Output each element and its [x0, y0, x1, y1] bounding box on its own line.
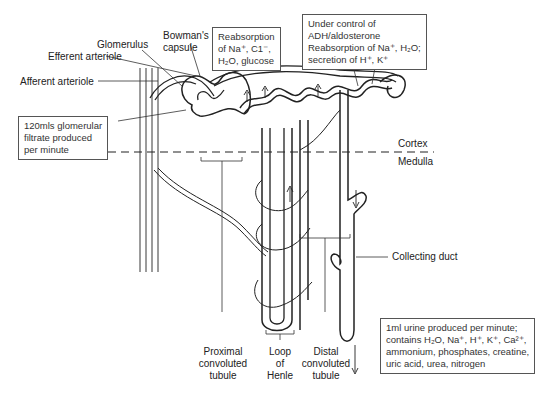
proximal-reabsorption-box: Reabsorption of Na⁺, C1⁻, H₂O, glucose: [212, 27, 281, 71]
bowmans-capsule-label: Bowman's capsule: [163, 30, 209, 54]
urine-box: 1ml urine produced per minute; contains …: [380, 318, 535, 374]
distal-control-box: Under control of ADH/aldosterone Reabsor…: [302, 14, 427, 70]
afferent-arteriole-label: Afferent arteriole: [20, 76, 94, 88]
loop-of-henle-label: Loop of Henle: [260, 346, 300, 382]
distal-tubule-label: Distal convoluted tubule: [296, 346, 356, 382]
glomerulus-label: Glomerulus: [97, 39, 148, 51]
collecting-duct-label: Collecting duct: [392, 251, 458, 263]
filtrate-box: 120mls glomerular filtrate produced per …: [18, 116, 108, 160]
efferent-arteriole-label: Efferent arteriole: [48, 51, 122, 63]
proximal-tubule-label: Proximal convoluted tubule: [195, 346, 251, 382]
medulla-label: Medulla: [398, 156, 433, 168]
cortex-label: Cortex: [398, 138, 427, 150]
